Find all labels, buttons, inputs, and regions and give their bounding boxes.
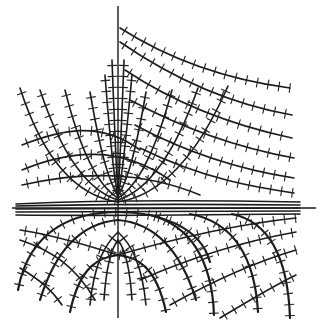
center-band-curve: [16, 204, 300, 206]
slope-tick: [104, 113, 113, 114]
slope-tick: [153, 184, 158, 192]
slope-tick: [59, 174, 60, 183]
slope-tick: [107, 146, 116, 147]
slope-tick: [284, 172, 285, 181]
slope-tick: [102, 150, 103, 159]
slope-tick: [123, 124, 132, 125]
slope-tick: [196, 137, 204, 142]
lower-left-sweeps-curve: [20, 240, 95, 300]
slope-tick: [80, 150, 81, 159]
slope-tick: [31, 273, 36, 280]
center-band-curve: [16, 211, 300, 212]
slope-tick: [91, 126, 92, 135]
direction-field-diagram: [0, 0, 325, 332]
slope-tick: [69, 127, 70, 136]
slope-tick: [52, 252, 57, 260]
slope-tick: [141, 299, 150, 300]
slope-tick: [289, 84, 290, 93]
slope-tick: [105, 124, 114, 125]
slope-tick: [207, 291, 216, 292]
slope-tick: [100, 294, 109, 295]
slope-tick: [126, 283, 135, 284]
slope-tick: [70, 173, 71, 182]
lower-inner-curve: [118, 240, 132, 300]
slope-tick: [251, 219, 252, 228]
slope-tick: [141, 97, 150, 99]
slope-tick: [136, 173, 137, 182]
slope-tick: [126, 91, 135, 92]
upper-u-curves-curve: [65, 90, 118, 198]
slope-tick: [284, 215, 285, 224]
slope-tick: [285, 304, 294, 305]
slope-tick: [25, 226, 26, 235]
slope-tick: [122, 135, 131, 136]
slope-tick: [252, 297, 261, 298]
slope-tick: [139, 288, 148, 289]
slope-tick: [281, 187, 282, 196]
slope-tick: [270, 185, 271, 194]
slope-tick: [295, 214, 296, 223]
lower-right-sweeps-curve: [140, 232, 296, 280]
slope-tick: [124, 113, 133, 114]
slope-tick: [122, 27, 127, 35]
slope-tick: [278, 82, 279, 91]
slope-tick: [93, 209, 94, 218]
slope-tick: [89, 293, 97, 298]
slope-tick: [137, 209, 138, 218]
slope-tick: [114, 216, 115, 225]
slope-tick: [87, 97, 96, 99]
center-band-curve: [16, 214, 300, 215]
lower-inner-curve: [104, 240, 118, 300]
slope-tick: [273, 216, 274, 225]
slope-tick: [127, 80, 136, 81]
lower-arches-curve: [232, 214, 290, 318]
slope-tick: [125, 272, 134, 273]
slope-tick: [101, 283, 110, 284]
slope-tick: [209, 302, 218, 303]
slope-tick: [284, 293, 293, 294]
slope-tick: [127, 294, 136, 295]
center-band-curve: [16, 201, 300, 204]
slope-tick: [131, 47, 136, 55]
slope-tick: [147, 175, 149, 184]
slope-tick: [292, 188, 293, 197]
slope-tick: [253, 308, 262, 309]
slope-tick: [101, 80, 110, 81]
slope-tick: [159, 160, 166, 165]
slope-tick: [141, 53, 146, 61]
slope-tick: [121, 146, 130, 147]
slope-tick: [122, 41, 127, 48]
slope-tick: [102, 272, 111, 273]
slope-tick: [222, 311, 227, 319]
slope-tick: [104, 208, 105, 217]
upper-u-curves-curve: [40, 90, 118, 200]
right-hyperbolas-curve: [125, 70, 292, 138]
slope-tick: [262, 218, 263, 227]
slope-tick: [103, 102, 112, 103]
slope-tick: [240, 221, 242, 230]
slope-tick: [71, 162, 78, 167]
slope-tick: [102, 91, 111, 92]
slope-tick: [137, 75, 142, 83]
slope-tick-marks: [15, 27, 297, 319]
slope-tick: [48, 175, 49, 184]
slope-tick: [82, 172, 83, 181]
slope-tick: [69, 152, 70, 161]
slope-tick: [119, 251, 120, 260]
